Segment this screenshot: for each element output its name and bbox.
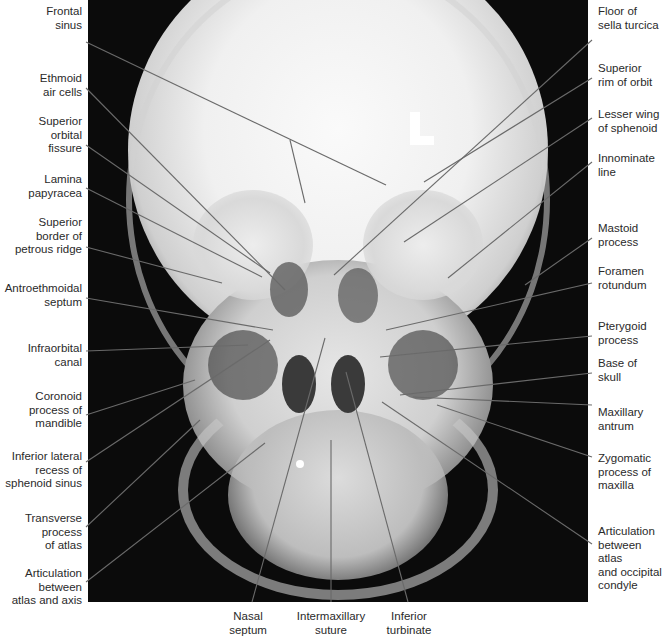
label-floor-sella-turcica: Floor of sella turcica [598,5,659,32]
label-superior-border-petrous-ridge: Superior border of petrous ridge [15,216,82,257]
label-zygomatic-process-maxilla: Zygomatic process of maxilla [598,452,651,493]
label-superior-orbital-fissure: Superior orbital fissure [39,115,82,156]
nasal-cavity-right [282,355,316,413]
label-base-of-skull: Base of skull [598,357,637,384]
skull-xray-image [88,0,588,602]
ethmoid-cells-right [270,262,308,317]
left-orbit [363,190,483,300]
label-lamina-papyracea: Lamina papyracea [28,173,82,200]
cervical-spine-overlap [228,410,448,580]
side-marker-l-foot [410,136,434,145]
label-intermaxillary-suture: Intermaxillary suture [286,610,376,637]
label-articulation-atlas-occipital: Articulation between atlas and occipital… [598,525,666,593]
label-inferior-turbinate: Inferior turbinate [374,610,444,637]
maxillary-antrum-left [388,330,458,400]
label-lesser-wing-sphenoid: Lesser wing of sphenoid [598,108,659,135]
label-inferior-lateral-recess: Inferior lateral recess of sphenoid sinu… [5,450,82,491]
label-superior-rim-orbit: Superior rim of orbit [598,62,652,89]
label-pterygoid-process: Pterygoid process [598,320,647,347]
labeled-skull-radiograph: Frontal sinus Ethmoid air cells Superior… [0,0,666,638]
label-innominate-line: Innominate line [598,152,655,179]
ethmoid-cells-left [338,268,378,323]
label-antroethmoidal-septum: Antroethmoidal septum [5,282,82,309]
label-foramen-rotundum: Foramen rotundum [598,265,647,292]
label-ethmoid-air-cells: Ethmoid air cells [40,72,82,99]
label-mastoid-process: Mastoid process [598,222,638,249]
label-coronoid-process: Coronoid process of mandible [29,390,82,431]
label-nasal-septum: Nasal septum [218,610,278,637]
nasal-cavity-left [331,355,365,413]
maxillary-antrum-right [208,330,278,400]
label-infraorbital-canal: Infraorbital canal [28,342,82,369]
radiopaque-dot [296,460,304,468]
label-transverse-process-atlas: Transverse process of atlas [25,512,82,553]
label-articulation-atlas-axis: Articulation between atlas and axis [12,567,82,608]
label-maxillary-antrum: Maxillary antrum [598,406,643,433]
label-frontal-sinus: Frontal sinus [46,5,82,32]
